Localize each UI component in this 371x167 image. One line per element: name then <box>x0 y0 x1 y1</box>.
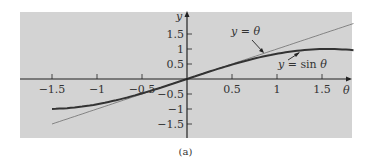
y-axis-label: y <box>175 10 183 23</box>
y-tick-label: −1.5 <box>157 118 184 131</box>
chart: −1.5−1−0.50.511.51.510.5−0.5−1−1.5 y θ y… <box>0 0 371 167</box>
svg-text:y = sin θ: y = sin θ <box>277 58 327 71</box>
y-tick-label: 1.5 <box>167 28 185 41</box>
x-tick-label: −1 <box>89 83 105 96</box>
svg-text:y = θ: y = θ <box>230 25 260 38</box>
x-tick-label: −1.5 <box>39 83 66 96</box>
plot-background <box>20 12 352 138</box>
x-axis-label: θ <box>343 84 350 97</box>
x-tick-label: 1 <box>274 83 281 96</box>
y-tick-label: −0.5 <box>157 88 184 101</box>
y-tick-label: −1 <box>168 103 184 116</box>
y-tick-label: 0.5 <box>167 58 185 71</box>
x-tick-label: 0.5 <box>223 83 241 96</box>
x-tick-label: −0.5 <box>129 83 156 96</box>
y-tick-label: 1 <box>177 43 184 56</box>
x-tick-label: 1.5 <box>313 83 331 96</box>
figure-caption: (a) <box>0 146 371 157</box>
